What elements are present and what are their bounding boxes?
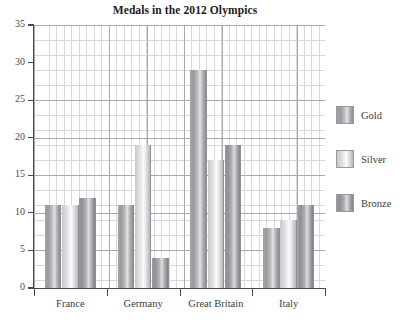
- bar-france-gold: [45, 205, 62, 288]
- x-axis-separator: [34, 289, 35, 296]
- bar-italy-gold: [263, 228, 280, 288]
- x-axis-separator: [252, 289, 253, 296]
- x-axis-separator: [180, 289, 181, 296]
- y-axis-tick-label: 0: [0, 281, 25, 292]
- x-axis-category-label: Great Britain: [180, 298, 253, 309]
- legend-swatch-bronze: [336, 194, 354, 212]
- bar-france-bronze: [79, 198, 96, 288]
- legend-item-silver: Silver: [336, 150, 386, 168]
- legend-item-bronze: Bronze: [336, 194, 391, 212]
- y-axis-tick-label: 30: [0, 56, 25, 67]
- bar-italy-bronze: [298, 205, 315, 288]
- y-axis-tick-label: 35: [0, 18, 25, 29]
- x-axis-category-label: Italy: [252, 298, 325, 309]
- x-axis-category-label: Germany: [107, 298, 180, 309]
- legend-swatch-silver: [336, 150, 354, 168]
- y-axis-tick: [28, 62, 34, 63]
- y-axis-tick: [28, 100, 34, 101]
- x-axis-category-label: France: [34, 298, 107, 309]
- bar-great-britain-silver: [208, 160, 225, 288]
- bar-great-britain-bronze: [225, 145, 242, 288]
- bar-germany-silver: [135, 145, 152, 288]
- y-axis-tick: [28, 212, 34, 213]
- y-axis-tick: [28, 137, 34, 138]
- legend-item-gold: Gold: [336, 106, 382, 124]
- y-axis-tick-label: 5: [0, 243, 25, 254]
- legend-swatch-gold: [336, 106, 354, 124]
- bar-italy-silver: [280, 220, 297, 288]
- bar-germany-gold: [118, 205, 135, 288]
- bar-great-britain-gold: [190, 70, 207, 288]
- y-axis-tick: [28, 24, 34, 25]
- chart-title: Medals in the 2012 Olympics: [60, 4, 310, 16]
- legend-label-gold: Gold: [361, 110, 382, 121]
- y-axis-tick-label: 10: [0, 206, 25, 217]
- y-axis-tick: [28, 250, 34, 251]
- legend-label-bronze: Bronze: [361, 198, 391, 209]
- x-axis-separator: [107, 289, 108, 296]
- y-axis-tick-label: 20: [0, 131, 25, 142]
- legend-label-silver: Silver: [361, 154, 386, 165]
- bar-chart: Medals in the 2012 Olympics 051015202530…: [0, 0, 404, 328]
- bar-germany-bronze: [152, 258, 169, 288]
- y-axis-tick: [28, 175, 34, 176]
- bar-france-silver: [62, 205, 79, 288]
- y-axis-tick-label: 15: [0, 168, 25, 179]
- x-axis-separator: [325, 289, 326, 296]
- y-axis-tick-label: 25: [0, 93, 25, 104]
